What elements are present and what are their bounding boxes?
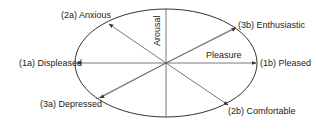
axis-label-pleasure: Pleasure <box>206 50 242 60</box>
label-anxious: (2a) Anxious <box>61 10 112 20</box>
label-depressed: (3a) Depressed <box>40 99 102 109</box>
axis-label-arousal: Arousal <box>152 15 162 46</box>
label-pleased: (1b) Pleased <box>260 58 311 68</box>
diagonal-line-a <box>96 63 166 99</box>
label-enthusiastic: (3b) Enthusiastic <box>238 20 306 30</box>
arrow-comfortable <box>166 63 228 105</box>
label-displeased: (1a) Displeased <box>19 58 82 68</box>
diagram-svg: Arousal Pleasure (2a) Anxious (1a) Displ… <box>0 0 316 132</box>
label-comfortable: (2b) Comfortable <box>228 106 296 116</box>
emotion-circumplex-diagram: Arousal Pleasure (2a) Anxious (1a) Displ… <box>0 0 316 132</box>
